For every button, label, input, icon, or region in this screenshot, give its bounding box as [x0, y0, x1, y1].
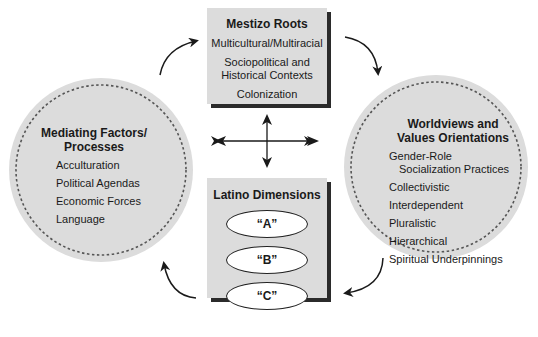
top-item: Historical Contexts	[207, 69, 327, 82]
latino-dimensions-title: Latino Dimensions	[207, 188, 327, 202]
cross-arrows-icon	[214, 114, 319, 168]
arrow-left-to-top	[160, 41, 196, 75]
right-item: Socialization Practices	[399, 163, 525, 176]
dimension-b: “B”	[226, 246, 308, 274]
left-item: Acculturation	[56, 159, 180, 172]
right-item: Gender-Role	[389, 150, 525, 163]
worldviews-title-1: Worldviews and	[393, 117, 513, 131]
dimension-c: “C”	[226, 282, 308, 310]
right-item: Hierarchical	[389, 235, 525, 248]
right-item: Interdependent	[389, 199, 525, 212]
top-item: Multicultural/Multiracial	[207, 37, 327, 50]
arrow-bottom-to-left	[164, 264, 196, 298]
right-item: Collectivistic	[389, 181, 525, 194]
mediating-factors-title-1: Mediating Factors/	[34, 126, 154, 140]
latino-dimensions-box: Latino Dimensions “A” “B” “C”	[207, 178, 327, 298]
left-item: Political Agendas	[56, 177, 180, 190]
left-item: Language	[56, 213, 180, 226]
left-item: Economic Forces	[56, 195, 180, 208]
dimension-a: “A”	[226, 210, 308, 238]
arrow-top-to-right	[345, 37, 378, 73]
right-item: Spiritual Underpinnings	[389, 253, 525, 266]
top-item: Colonization	[207, 88, 327, 101]
mediating-factors-title-2: Processes	[34, 140, 154, 154]
worldviews-title-2: Values Orientations	[393, 131, 513, 145]
arrow-right-to-bottom	[346, 258, 383, 293]
top-item: Sociopolitical and	[207, 56, 327, 69]
worldviews-text: Worldviews and Values Orientations Gende…	[385, 117, 525, 266]
mestizo-roots-box: Mestizo Roots Multicultural/Multiracial …	[207, 8, 327, 104]
mestizo-roots-title: Mestizo Roots	[207, 17, 327, 31]
right-item: Pluralistic	[389, 217, 525, 230]
mediating-factors-text: Mediating Factors/ Processes Acculturati…	[30, 126, 180, 226]
